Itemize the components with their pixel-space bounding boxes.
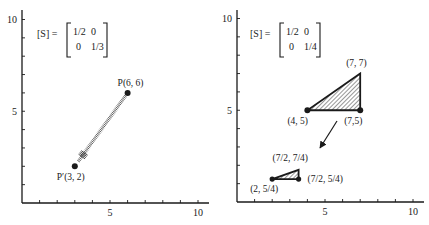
matrix-cell: 0 — [289, 41, 294, 52]
arrow-hatch — [77, 160, 80, 162]
vertex-dot — [296, 176, 301, 181]
vertex-dot — [270, 176, 275, 181]
vertex-label: (7,5) — [344, 116, 362, 127]
arrow-hatch — [99, 130, 102, 132]
matrix-cell: 0 — [76, 41, 81, 52]
arrow-hatch — [97, 133, 100, 135]
vertex-label: (7/2, 5/4) — [308, 174, 343, 185]
arrow-hatch — [101, 128, 104, 130]
matrix-cell: 1/2 — [286, 26, 299, 37]
scaling-matrix: [S] =1/2001/4 — [250, 23, 320, 57]
triangle-shape — [272, 170, 298, 179]
vertex-label: (4, 5) — [287, 116, 308, 127]
arrow-hatch — [109, 116, 112, 118]
matrix-label: [S] = — [37, 28, 58, 39]
arrow-hatch — [78, 159, 81, 161]
vertex-dot — [357, 107, 363, 113]
arrow-hatch — [87, 147, 90, 149]
arrow-hatch — [88, 145, 91, 147]
arrow-hatch — [111, 113, 114, 115]
arrow-hatch — [94, 137, 97, 139]
point-p-prime — [72, 163, 78, 169]
transformation-arrow — [77, 95, 126, 162]
transformation-arrow — [320, 121, 337, 148]
y-tick-label: 5 — [12, 106, 17, 117]
arrow-hatch — [112, 112, 115, 114]
arrow-hatch — [93, 138, 96, 140]
arrow-hatch — [113, 111, 116, 113]
arrow-hatch — [119, 102, 122, 104]
x-tick-label: 10 — [193, 207, 203, 218]
original-triangle: (4, 5)(7,5)(7, 7) — [287, 58, 366, 128]
arrow-hatch — [122, 98, 125, 100]
arrow-hatch — [121, 99, 124, 101]
matrix-cell: 1/3 — [91, 41, 104, 52]
vertex-label: (7, 7) — [346, 58, 367, 69]
arrow-hatch — [117, 104, 120, 106]
arrow-hatch — [96, 134, 99, 136]
arrow-hatch — [91, 141, 94, 143]
arrow-hatch — [89, 143, 92, 145]
arrow-hatch — [100, 129, 103, 131]
left-bracket — [67, 23, 71, 57]
arrow-hatch — [107, 119, 110, 121]
arrow-hatch — [108, 117, 111, 119]
left-panel-point-scaling: 510510[S] =1/2001/3P(6, 6)P′(3, 2) — [7, 10, 209, 218]
arrow-hatch — [105, 121, 108, 123]
scaling-transformation-diagram: 510510[S] =1/2001/3P(6, 6)P′(3, 2) 51051… — [0, 0, 429, 225]
arrow-hatch — [103, 124, 106, 126]
point-label: P′(3, 2) — [57, 172, 85, 183]
arrow-hatch — [110, 115, 113, 117]
arrow-hatch — [116, 107, 119, 109]
arrow-hatch — [116, 106, 119, 108]
vertex-label: (2, 5/4) — [250, 184, 278, 195]
matrix-cell: 1/2 — [73, 26, 86, 37]
triangle-shape — [307, 74, 360, 111]
x-tick-label: 5 — [323, 206, 328, 217]
arrow-hatch — [106, 120, 109, 122]
matrix-cell: 0 — [304, 26, 309, 37]
arrow-hatch — [95, 135, 98, 137]
matrix-cell: 1/4 — [304, 41, 317, 52]
point-label: P(6, 6) — [118, 78, 144, 89]
arrow-hatch — [120, 100, 123, 102]
arrow-hatch — [86, 148, 89, 150]
arrow-hatch — [92, 139, 95, 141]
arrow-hatch — [85, 150, 88, 152]
arrow-hatch — [98, 132, 101, 134]
point-p — [125, 90, 131, 96]
matrix-cell: 0 — [91, 26, 96, 37]
arrow-hatch — [90, 142, 93, 144]
scaling-matrix: [S] =1/2001/3 — [37, 23, 107, 57]
y-tick-label: 10 — [7, 14, 17, 25]
x-tick-label: 5 — [108, 207, 113, 218]
scaled-triangle: (2, 5/4)(7/2, 5/4)(7/2, 7/4) — [250, 153, 343, 195]
y-tick-label: 10 — [222, 13, 232, 24]
arrow-hatch — [102, 125, 105, 127]
left-bracket — [280, 23, 284, 57]
arrow-hatch — [118, 103, 121, 105]
arrow-hatch — [114, 110, 117, 112]
y-tick-label: 5 — [227, 105, 232, 116]
vertex-dot — [304, 107, 310, 113]
x-tick-label: 10 — [408, 206, 418, 217]
arrow-hatch — [102, 126, 105, 128]
arrow-hatch — [104, 122, 107, 124]
arrow-hatch — [79, 158, 82, 160]
right-panel-triangle-scaling: 510510[S] =1/2001/4(4, 5)(7,5)(7, 7)(2, … — [222, 10, 424, 217]
arrow-hatch — [123, 97, 126, 99]
arrow-hatch — [88, 146, 91, 148]
matrix-label: [S] = — [250, 28, 271, 39]
vertex-label: (7/2, 7/4) — [273, 153, 308, 164]
arrow-hatch — [115, 108, 118, 110]
